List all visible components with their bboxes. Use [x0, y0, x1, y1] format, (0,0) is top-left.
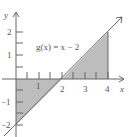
y-tick-1: 1 [7, 50, 12, 60]
x-tick-3: 3 [83, 84, 88, 94]
graph: y x g(x) = x − 2 1 2 3 4 2 1 −1 −2 [0, 0, 129, 137]
y-tick-2: 2 [7, 27, 12, 37]
y-axis-label: y [3, 10, 8, 20]
x-tick-2: 2 [60, 84, 65, 94]
function-label: g(x) = x − 2 [36, 42, 79, 52]
x-tick-1: 1 [36, 81, 41, 91]
x-tick-4: 4 [105, 84, 110, 94]
y-tick-m1: −1 [1, 97, 11, 107]
y-tick-m2: −2 [1, 120, 11, 130]
shaded-region-above [62, 32, 108, 79]
x-axis-label: x [119, 84, 124, 94]
